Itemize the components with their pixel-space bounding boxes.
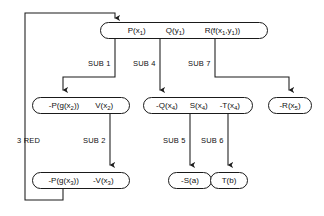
literal-neg-v-x3: -V(x3) xyxy=(93,177,114,185)
literal-q-y1: Q(y1) xyxy=(166,27,185,35)
literal-neg-s-a: -S(a) xyxy=(181,177,199,185)
edge-label-sub-4: SUB 4 xyxy=(133,60,156,68)
edge-sub-7 xyxy=(215,39,289,90)
edge-label-sub-2: SUB 2 xyxy=(83,137,106,145)
diagram-canvas: P(x1) Q(y1) R(f(x1,y1)) -P(g(x2)) V(x2) … xyxy=(0,0,324,216)
literal-neg-p-g-x2: -P(g(x2)) xyxy=(49,102,79,110)
edge-label-sub-6: SUB 6 xyxy=(201,137,224,145)
literal-p-x1: P(x1) xyxy=(128,27,146,35)
node-left-row3[interactable]: -P(g(x3)) -V(x3) xyxy=(32,172,130,189)
edge-label-red-3: 3 RED xyxy=(17,137,40,145)
literal-neg-r-x5: -R(x5) xyxy=(279,102,300,110)
node-root[interactable]: P(x1) Q(y1) R(f(x1,y1)) xyxy=(100,22,268,39)
node-mid-row2[interactable]: -Q(x4) S(x4) -T(x4) xyxy=(143,97,253,114)
node-right-row2[interactable]: -R(x5) xyxy=(268,97,312,114)
edge-label-sub-1: SUB 1 xyxy=(88,60,111,68)
node-neg-s-a[interactable]: -S(a) xyxy=(168,172,212,189)
literal-t-b: T(b) xyxy=(222,177,237,185)
edge-label-sub-7: SUB 7 xyxy=(188,60,211,68)
node-left-row2[interactable]: -P(g(x2)) V(x2) xyxy=(32,97,130,114)
literal-s-x4: S(x4) xyxy=(190,102,208,110)
literal-neg-t-x4: -T(x4) xyxy=(220,102,240,110)
literal-v-x2: V(x2) xyxy=(95,102,113,110)
literal-r-f-x1-y1: R(f(x1,y1)) xyxy=(205,27,241,35)
literal-neg-p-g-x3: -P(g(x3)) xyxy=(48,177,78,185)
node-t-b[interactable]: T(b) xyxy=(210,172,248,189)
edge-label-sub-5: SUB 5 xyxy=(163,137,186,145)
literal-neg-q-x4: -Q(x4) xyxy=(156,102,178,110)
